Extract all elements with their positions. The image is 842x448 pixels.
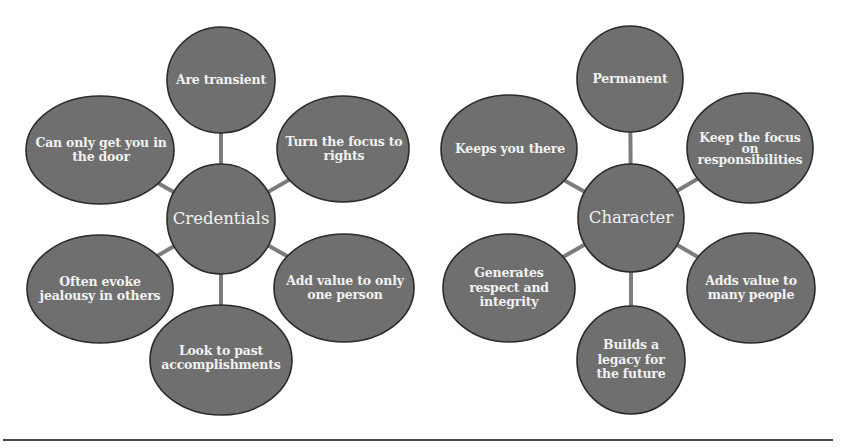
label-builds-legacy: Builds a legacy for the future <box>583 330 679 390</box>
label-permanent: Permanent <box>577 49 683 109</box>
label-keeps-you-there: Keeps you there <box>446 119 574 179</box>
label-get-you-in-door: Can only get you in the door <box>28 120 174 180</box>
diagram-canvas <box>0 0 842 448</box>
horizontal-rule <box>3 439 833 441</box>
label-respect-integrity: Generates respect and integrity <box>463 258 555 318</box>
label-evoke-jealousy: Often evoke jealousy in others <box>30 259 170 319</box>
label-look-to-past: Look to past accomplishments <box>153 328 289 388</box>
label-focus-responsibilities: Keep the focus on responsibilities <box>694 118 806 178</box>
label-adds-value-many: Adds value to many people <box>696 258 806 318</box>
label-add-value-one-person: Add value to only one person <box>278 258 412 318</box>
label-credentials: Credentials <box>167 199 275 239</box>
label-are-transient: Are transient <box>167 50 275 110</box>
label-turn-focus-to-rights: Turn the focus to rights <box>280 119 408 179</box>
label-character: Character <box>578 198 684 238</box>
